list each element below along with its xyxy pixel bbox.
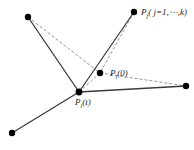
label-pj-range: ( j=1,⋯,k): [148, 7, 187, 17]
node-pi0: [97, 70, 103, 76]
diagram-svg: [0, 0, 194, 150]
label-pi0-arg: (0): [117, 68, 128, 78]
node-upper-left: [25, 14, 31, 20]
node-pit: [76, 89, 83, 96]
node-right: [183, 83, 189, 89]
label-pi0: Pi(0): [110, 69, 128, 80]
dashed-edge-pj-pi0: [100, 12, 134, 73]
solid-edge-pj-pit: [79, 12, 134, 92]
solid-edge-pit-right: [79, 86, 186, 92]
node-pj: [131, 9, 137, 15]
solid-edge-pit-bottomleft: [12, 92, 79, 133]
solid-edge-upperleft-pit: [28, 17, 79, 92]
label-pit: Pi(t): [75, 98, 91, 109]
diagram-canvas: Pj( j=1,⋯,k) Pi(0) Pi(t): [0, 0, 194, 150]
label-pj: Pj( j=1,⋯,k): [141, 8, 187, 19]
dashed-edge-upperleft-pi0: [28, 17, 100, 73]
label-pit-arg: (t): [82, 97, 91, 107]
node-bottom-left: [9, 130, 15, 136]
